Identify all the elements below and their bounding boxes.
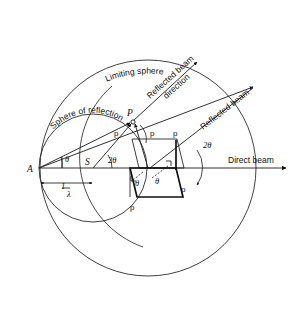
label-reflected-beam: Reflected beam — [198, 87, 251, 132]
label-theta-inner-right: θ — [155, 176, 159, 186]
label-2theta-right: 2θ — [203, 140, 211, 150]
label-one-over-lambda-denominator: λ — [66, 189, 71, 199]
label-p-top-right: p — [173, 129, 178, 138]
diagram-canvas: Limiting sphere Sphere of reflection Ref… — [0, 0, 302, 319]
label-one-over-lambda-numerator: 1 — [61, 181, 65, 191]
label-reflected-beam-direction: Reflected beam direction — [145, 53, 203, 108]
ewald-sphere-diagram: Limiting sphere Sphere of reflection Ref… — [0, 0, 302, 319]
point-p-marker — [131, 120, 135, 124]
label-p-bottom-left: p — [130, 203, 135, 212]
label-2theta-left: 2θ — [108, 155, 116, 165]
label-point-a: A — [26, 164, 33, 174]
label-point-p: P — [126, 108, 133, 118]
label-reflected-beam-text: Reflected beam — [198, 87, 251, 132]
label-p-left: p — [114, 129, 119, 138]
label-direct-beam: Direct beam — [228, 155, 274, 165]
label-p-bottom-right: p — [181, 185, 186, 194]
label-point-s: S — [85, 157, 90, 167]
label-theta-inner-left: θ — [135, 178, 139, 188]
label-sphere-of-reflection: Sphere of reflection — [48, 105, 126, 131]
angle-arc-2theta-right — [197, 150, 203, 185]
label-theta-left: θ — [65, 154, 69, 164]
label-p-top-middle: p — [150, 129, 155, 138]
label-limiting-sphere: Limiting sphere — [104, 65, 165, 83]
theta-corner-right — [166, 161, 171, 166]
